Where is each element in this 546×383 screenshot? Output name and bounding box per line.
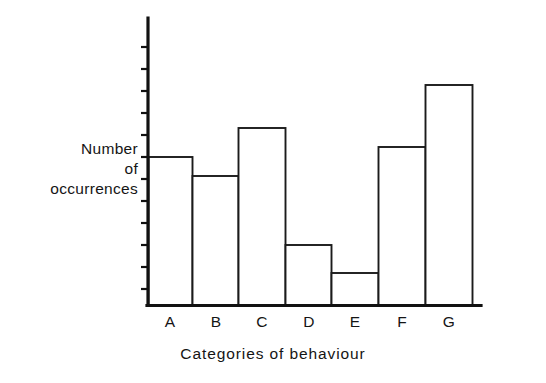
x-label-D: D: [303, 313, 314, 330]
bars-group: [149, 85, 473, 305]
x-axis-title: Categories of behaviour: [0, 345, 546, 363]
x-axis-category-labels: A B C D E F G: [165, 313, 455, 330]
x-label-G: G: [443, 313, 455, 330]
x-label-F: F: [397, 313, 407, 330]
bar-C: [239, 128, 286, 305]
bar-F: [379, 147, 426, 305]
bar-E: [332, 273, 379, 305]
x-label-B: B: [211, 313, 222, 330]
x-label-E: E: [350, 313, 361, 330]
bar-D: [286, 245, 332, 305]
y-axis-title-line-2: of: [8, 159, 138, 179]
x-label-A: A: [165, 313, 176, 330]
y-axis-title: Number of occurrences: [8, 139, 138, 199]
y-axis-title-line-1: Number: [8, 139, 138, 159]
x-label-C: C: [256, 313, 267, 330]
bar-G: [426, 85, 473, 305]
bar-chart-figure: A B C D E F G Number of occurrences Cate…: [0, 0, 546, 383]
y-axis-title-line-3: occurrences: [8, 179, 138, 199]
bar-A: [149, 157, 193, 305]
bar-B: [193, 176, 239, 305]
